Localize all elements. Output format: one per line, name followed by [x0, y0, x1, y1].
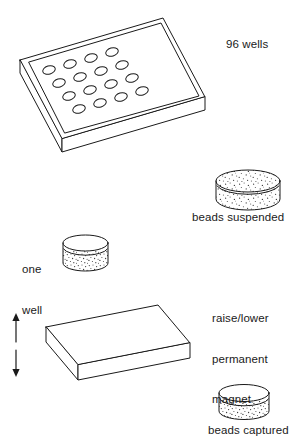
well-one-well: [63, 235, 108, 271]
well-beads-suspended: [216, 170, 280, 210]
label-magnet-line1: raise/lower: [212, 312, 269, 326]
label-beads-captured: beads captured: [208, 424, 289, 438]
label-permanent-magnet: raise/lower permanent magnet: [212, 285, 269, 434]
label-one-well-line2: well: [22, 304, 42, 318]
microplate-96-well: [20, 18, 205, 152]
label-96-wells: 96 wells: [226, 38, 268, 52]
label-magnet-line3: magnet: [212, 393, 269, 407]
label-one-well: one well: [22, 236, 42, 344]
arrow-down-icon: [12, 350, 19, 377]
arrow-up-icon: [12, 313, 19, 342]
label-beads-suspended: beads suspended: [192, 211, 284, 225]
magnet-motion-arrows: [12, 313, 19, 377]
label-one-well-line1: one: [22, 263, 42, 277]
label-magnet-line2: permanent: [212, 353, 269, 367]
figure-canvas: 96 wells beads suspended one well raise/…: [0, 0, 300, 446]
permanent-magnet-block: [46, 305, 190, 380]
